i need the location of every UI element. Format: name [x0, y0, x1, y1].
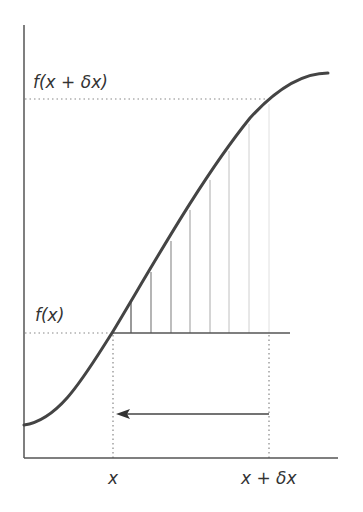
label-f-x: f(x) [35, 305, 64, 325]
label-x-plus-dx: x + δx [241, 468, 297, 488]
label-f-x-plus-dx: f(x + δx) [33, 72, 108, 92]
label-x: x [108, 468, 118, 488]
hatch-lines [131, 104, 269, 333]
function-curve [24, 73, 328, 425]
